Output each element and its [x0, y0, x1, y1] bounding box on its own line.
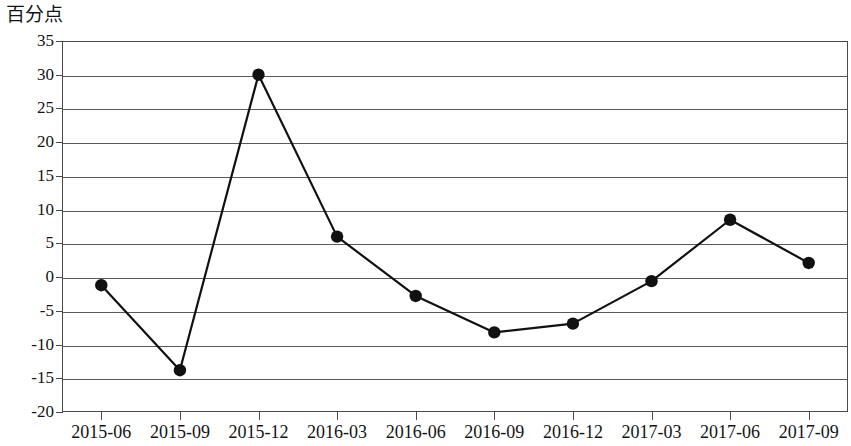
- y-tick-mark: [56, 277, 63, 278]
- x-tick-label: 2016-06: [386, 421, 446, 443]
- x-tick-mark: [809, 412, 810, 420]
- y-tick-mark: [56, 345, 63, 346]
- y-tick-mark: [56, 243, 63, 244]
- x-tick-mark: [337, 412, 338, 420]
- y-tick-mark: [56, 378, 63, 379]
- y-tick-label: 30: [8, 66, 54, 83]
- y-tick-mark: [56, 142, 63, 143]
- y-tick-label: 20: [8, 133, 54, 150]
- x-tick-label: 2017-06: [700, 421, 760, 443]
- y-tick-label: 5: [8, 234, 54, 251]
- x-tick-mark: [180, 412, 181, 420]
- y-tick-label: 0: [8, 268, 54, 285]
- x-tick-mark: [730, 412, 731, 420]
- gridline: [63, 211, 847, 212]
- y-axis-unit-label: 百分点: [6, 3, 63, 25]
- y-tick-label: 10: [8, 201, 54, 218]
- x-tick-label: 2017-03: [622, 421, 682, 443]
- x-tick-mark: [573, 412, 574, 420]
- x-tick-mark: [652, 412, 653, 420]
- gridline: [63, 244, 847, 245]
- y-tick-label: 35: [8, 32, 54, 49]
- gridline: [63, 379, 847, 380]
- x-tick-mark: [416, 412, 417, 420]
- x-tick-label: 2016-09: [464, 421, 524, 443]
- x-tick-label: 2017-09: [779, 421, 839, 443]
- x-tick-mark: [101, 412, 102, 420]
- y-tick-mark: [56, 176, 63, 177]
- y-tick-mark: [56, 412, 63, 413]
- line-chart: 百分点 35302520151050-5-10-15-20 2015-06201…: [0, 0, 851, 446]
- y-tick-mark: [56, 210, 63, 211]
- y-tick-mark: [56, 41, 63, 42]
- y-tick-mark: [56, 311, 63, 312]
- x-tick-label: 2015-12: [229, 421, 289, 443]
- x-tick-mark: [494, 412, 495, 420]
- y-tick-label: 15: [8, 167, 54, 184]
- x-tick-label: 2015-06: [71, 421, 131, 443]
- y-tick-mark: [56, 75, 63, 76]
- gridline: [63, 346, 847, 347]
- x-tick-label: 2015-09: [150, 421, 210, 443]
- y-tick-label: -20: [8, 403, 54, 420]
- y-tick-label: -10: [8, 336, 54, 353]
- gridline: [63, 312, 847, 313]
- x-tick-label: 2016-03: [307, 421, 367, 443]
- plot-area: [62, 41, 848, 412]
- gridline: [63, 76, 847, 77]
- gridline: [63, 278, 847, 279]
- y-tick-label: 25: [8, 99, 54, 116]
- gridline: [63, 143, 847, 144]
- y-tick-mark: [56, 108, 63, 109]
- y-tick-label: -5: [8, 302, 54, 319]
- x-tick-mark: [259, 412, 260, 420]
- gridline: [63, 109, 847, 110]
- x-tick-label: 2016-12: [543, 421, 603, 443]
- gridline: [63, 177, 847, 178]
- y-tick-label: -15: [8, 369, 54, 386]
